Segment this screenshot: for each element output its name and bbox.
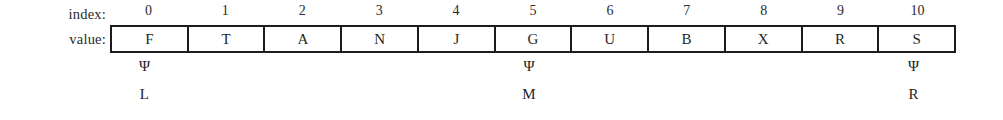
pointer-marker-slot — [725, 58, 802, 118]
pointer-marker-slot — [802, 58, 879, 118]
index-label: 7 — [648, 2, 725, 22]
array-cell: X — [726, 27, 803, 51]
array-cell: U — [572, 27, 649, 51]
psi-icon: Ψ — [495, 58, 564, 75]
array-cell: R — [803, 27, 880, 51]
array-cell: B — [649, 27, 726, 51]
index-label: 10 — [879, 2, 956, 22]
value-row-label: value: — [18, 32, 106, 47]
index-label: 4 — [418, 2, 495, 22]
array-cell: N — [342, 27, 419, 51]
index-label: 0 — [110, 2, 187, 22]
pointer-marker-slot: Ψ L — [110, 58, 187, 118]
pointer-marker: Ψ M — [495, 58, 572, 103]
value-row-label-container: value: — [18, 32, 106, 48]
pointer-marker-slot — [571, 58, 648, 118]
pointer-name: R — [879, 86, 948, 103]
array-cell: G — [496, 27, 573, 51]
pointer-marker-strip: Ψ L — [110, 58, 956, 118]
index-label: 1 — [187, 2, 264, 22]
pointer-marker-slot — [187, 58, 264, 118]
pointer-marker: Ψ L — [110, 58, 187, 103]
array-cell: S — [879, 27, 954, 51]
index-label: 9 — [802, 2, 879, 22]
array-boxes: F T A N J G U B X R S — [110, 25, 956, 53]
pointer-marker: Ψ R — [879, 58, 956, 103]
index-label: 6 — [571, 2, 648, 22]
index-label: 8 — [725, 2, 802, 22]
index-number-strip: 0 1 2 3 4 5 6 7 8 9 10 — [110, 2, 956, 22]
index-label: 5 — [495, 2, 572, 22]
pointer-marker-slot — [341, 58, 418, 118]
array-cell: A — [265, 27, 342, 51]
psi-icon: Ψ — [110, 58, 179, 75]
pointer-marker-slot: Ψ M — [495, 58, 572, 118]
pointer-marker-slot: Ψ R — [879, 58, 956, 118]
pointer-marker-slot — [264, 58, 341, 118]
pointer-name: M — [495, 86, 564, 103]
pointer-name: L — [110, 86, 179, 103]
psi-icon: Ψ — [879, 58, 948, 75]
index-row-label-container: index: — [18, 7, 106, 23]
index-label: 3 — [341, 2, 418, 22]
index-label: 2 — [264, 2, 341, 22]
array-cell: T — [189, 27, 266, 51]
pointer-marker-slot — [418, 58, 495, 118]
pointer-marker-slot — [648, 58, 725, 118]
array-cell: J — [419, 27, 496, 51]
array-diagram: index: value: 0 1 2 3 4 5 6 7 8 9 10 F T… — [0, 0, 1003, 120]
array-cell: F — [112, 27, 189, 51]
index-row-label: index: — [18, 7, 106, 22]
